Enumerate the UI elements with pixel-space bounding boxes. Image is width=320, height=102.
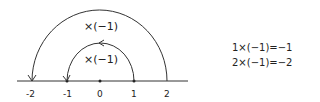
tick-label: -1 [63,89,72,99]
inner-arc-label: ×(−1) [84,53,118,66]
tick-dot [99,80,102,83]
tick-label: 1 [131,89,137,99]
tick-label: -2 [26,89,35,99]
equation-1: 1×(−1)=−1 [232,42,292,54]
inner-arrowhead-icon [63,75,70,81]
tick-label: 0 [97,89,103,99]
outer-arc-label: ×(−1) [84,20,118,33]
equation-2: 2×(−1)=−2 [232,57,292,69]
tick-label: 2 [164,89,170,99]
